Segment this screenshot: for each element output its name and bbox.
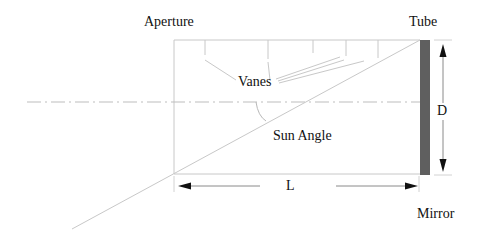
baffle-tube-diagram: Aperture Tube Vanes Sun Angle D L Mirror <box>0 0 477 237</box>
l-arrowhead-left-icon <box>178 183 191 190</box>
length-dimension <box>174 176 419 192</box>
sun-ray-line <box>72 40 420 229</box>
diameter-label: D <box>437 104 447 118</box>
vanes-label: Vanes <box>238 75 271 89</box>
leader-line-4 <box>278 60 344 81</box>
sun-angle-arc <box>256 102 266 121</box>
tube-label: Tube <box>409 15 437 29</box>
aperture-label: Aperture <box>144 15 194 29</box>
l-arrowhead-right-icon <box>405 183 418 190</box>
vanes <box>205 40 378 59</box>
mirror-label: Mirror <box>417 207 454 221</box>
leader-line-1 <box>205 60 236 80</box>
diagram-canvas <box>0 0 477 237</box>
mirror-bar <box>420 40 430 175</box>
d-arrowhead-down-icon <box>440 159 447 172</box>
sun-angle-label: Sun Angle <box>273 129 332 143</box>
vane-leaders <box>205 57 364 83</box>
leader-line-5 <box>279 61 364 83</box>
length-label: L <box>286 179 295 193</box>
d-arrowhead-up-icon <box>440 44 447 57</box>
